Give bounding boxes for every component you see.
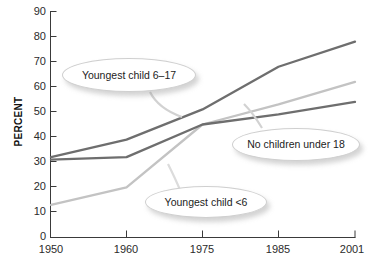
callout-label: No children under 18 <box>247 138 344 150</box>
callout-youngest-child-6-17[interactable]: Youngest child 6–17 <box>62 58 196 92</box>
x-axis-ticks <box>127 231 356 238</box>
callout-tail-6to17 <box>150 92 182 117</box>
callout-label: Youngest child <6 <box>165 196 248 208</box>
callout-label: Youngest child 6–17 <box>82 69 176 81</box>
chart-container: PERCENT 90 80 70 60 50 40 30 20 10 0 195… <box>0 0 372 271</box>
y-axis-ticks <box>51 12 57 212</box>
callout-no-children-under-18[interactable]: No children under 18 <box>232 128 360 161</box>
callout-tail-under6 <box>168 164 180 190</box>
callout-youngest-child-under-6[interactable]: Youngest child <6 <box>145 186 267 218</box>
